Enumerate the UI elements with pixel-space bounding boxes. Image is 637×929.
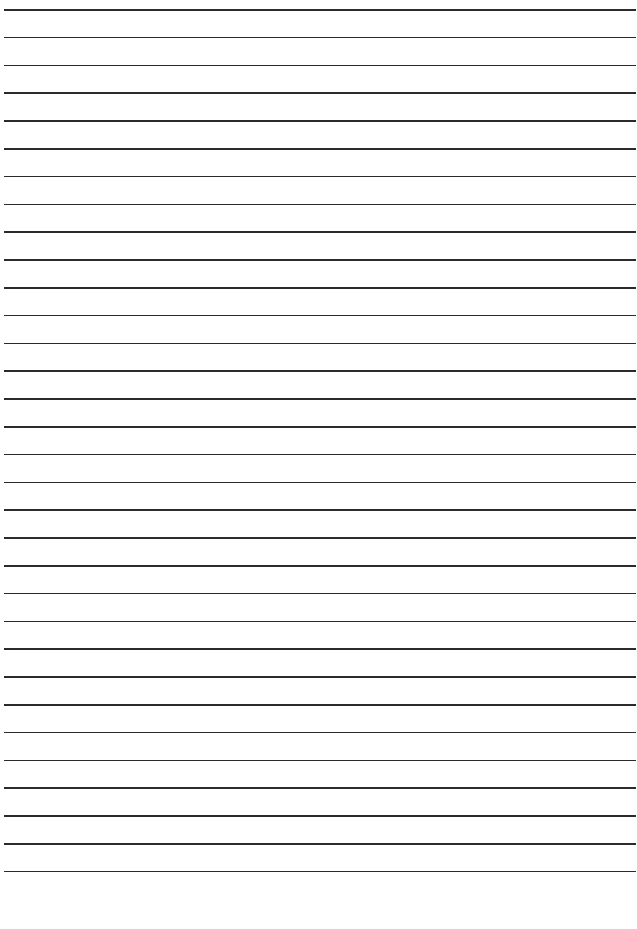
ruled-line bbox=[4, 370, 636, 372]
ruled-line bbox=[4, 621, 636, 623]
ruled-line bbox=[4, 815, 636, 817]
lined-paper-sheet bbox=[0, 0, 637, 929]
ruled-line bbox=[4, 9, 636, 11]
ruled-line bbox=[4, 760, 636, 762]
ruled-line bbox=[4, 287, 636, 289]
ruled-line bbox=[4, 120, 636, 122]
ruled-line bbox=[4, 204, 636, 206]
ruled-line bbox=[4, 843, 636, 845]
ruled-line bbox=[4, 565, 636, 567]
ruled-line bbox=[4, 343, 636, 345]
ruled-line bbox=[4, 482, 636, 484]
ruled-line bbox=[4, 37, 636, 39]
ruled-line bbox=[4, 454, 636, 456]
ruled-line bbox=[4, 704, 636, 706]
ruled-line bbox=[4, 593, 636, 595]
ruled-line bbox=[4, 426, 636, 428]
ruled-line bbox=[4, 871, 636, 873]
ruled-line bbox=[4, 398, 636, 400]
ruled-line bbox=[4, 176, 636, 178]
ruled-line bbox=[4, 92, 636, 94]
ruled-line bbox=[4, 231, 636, 233]
ruled-line bbox=[4, 537, 636, 539]
ruled-line bbox=[4, 676, 636, 678]
ruled-line bbox=[4, 259, 636, 261]
ruled-line bbox=[4, 787, 636, 789]
ruled-line bbox=[4, 509, 636, 511]
ruled-line bbox=[4, 315, 636, 317]
ruled-line bbox=[4, 648, 636, 650]
ruled-line bbox=[4, 148, 636, 150]
ruled-line bbox=[4, 65, 636, 67]
ruled-line bbox=[4, 732, 636, 734]
